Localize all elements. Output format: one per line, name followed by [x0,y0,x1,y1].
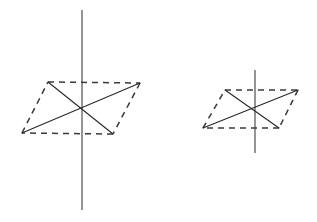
left-parallelogram-top-edge [48,82,140,83]
left-parallelogram-group [22,10,140,210]
left-parallelogram-right-edge [113,83,140,134]
right-parallelogram-left-edge [203,90,225,128]
figure-canvas [0,0,317,222]
geometry-figure [0,0,317,222]
right-parallelogram-right-edge [279,90,298,128]
left-parallelogram-left-edge [22,82,48,133]
left-parallelogram-bottom-edge [22,133,113,134]
left-parallelogram-diagonal-b [22,83,140,133]
right-parallelogram-group [203,70,298,153]
right-parallelogram-diagonal-b [203,90,298,128]
